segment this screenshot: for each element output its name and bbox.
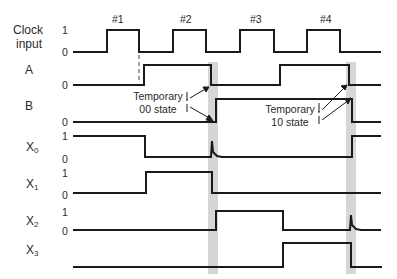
pulse-label-3: #3 xyxy=(250,13,262,25)
x0-high-level: 1 xyxy=(62,130,68,142)
x2-high-level: 1 xyxy=(62,206,68,218)
x2-low-level: 0 xyxy=(62,225,68,237)
x2-label: X2 xyxy=(26,215,38,231)
annotation-temporary-00: Temporary 00 state xyxy=(130,90,186,116)
brace-00 xyxy=(186,92,188,112)
timing-diagram xyxy=(0,0,397,279)
clock-low-level: 0 xyxy=(62,46,68,58)
clock-high-level: 1 xyxy=(62,24,68,36)
x1-waveform xyxy=(73,172,381,193)
x1-low-level: 0 xyxy=(62,189,68,201)
x0-low-level: 0 xyxy=(62,153,68,165)
a-low-level: 0 xyxy=(62,79,68,91)
x1-high-level: 1 xyxy=(62,167,68,179)
brace-10 xyxy=(318,103,320,124)
glitch-region-1 xyxy=(208,62,218,274)
x0-waveform xyxy=(73,136,381,157)
x3-waveform xyxy=(73,243,382,267)
clock-waveform xyxy=(73,30,381,52)
x2-waveform xyxy=(73,211,381,230)
pulse-label-2: #2 xyxy=(180,13,192,25)
a-label: A xyxy=(25,64,33,76)
pulse-label-1: #1 xyxy=(112,13,124,25)
x0-label: X0 xyxy=(26,141,38,157)
pulse-label-4: #4 xyxy=(320,13,332,25)
clock-label-line2: input xyxy=(16,38,42,50)
clock-label: Clock xyxy=(13,24,43,36)
annotation-temporary-10: Temporary 10 state xyxy=(262,103,318,129)
b-label: B xyxy=(25,100,33,112)
x3-label: X3 xyxy=(26,244,38,260)
x1-label: X1 xyxy=(26,178,38,194)
a-waveform xyxy=(73,65,381,85)
b-low-level: 0 xyxy=(62,116,68,128)
